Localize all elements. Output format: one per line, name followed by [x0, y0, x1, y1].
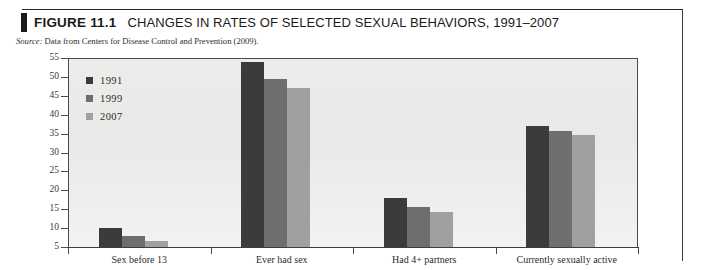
y-axis-tick-label: 45: [35, 91, 59, 100]
figure-container: FIGURE 11.1CHANGES IN RATES OF SELECTED …: [0, 0, 709, 270]
x-axis-category-label: Sex before 13: [68, 254, 211, 265]
y-axis-tick: [61, 209, 68, 210]
legend-item: 1999: [86, 91, 123, 106]
chart-bar: [145, 241, 168, 247]
legend-swatch-icon: [86, 113, 93, 120]
chart-bar: [407, 207, 430, 247]
legend-item: 2007: [86, 109, 123, 124]
y-axis-tick-label: 35: [35, 129, 59, 138]
chart-bar: [287, 88, 310, 247]
chart-bar: [430, 212, 453, 247]
y-axis-tick-label: 40: [35, 110, 59, 119]
chart-bar: [549, 131, 572, 247]
chart-bar: [572, 135, 595, 247]
legend-label: 1999: [100, 93, 123, 104]
y-axis-tick: [61, 247, 68, 248]
x-axis-category-label: Currently sexually active: [496, 254, 639, 265]
x-axis-tick: [638, 248, 639, 254]
y-axis-tick: [61, 153, 68, 154]
y-axis-tick-label: 55: [35, 53, 59, 62]
x-axis-category-label: Had 4+ partners: [353, 254, 496, 265]
chart-plot-wrapper: 555045403530252015105 Sex before 13Ever …: [0, 0, 709, 270]
x-axis-tick: [68, 248, 69, 254]
y-axis-tick: [61, 58, 68, 59]
y-axis-tick: [61, 77, 68, 78]
y-axis-tick-label: 30: [35, 148, 59, 157]
legend-label: 2007: [100, 111, 123, 122]
legend-item: 1991: [86, 73, 123, 88]
chart-legend: 199119992007: [86, 73, 123, 127]
chart-bar: [122, 236, 145, 247]
y-axis-tick: [61, 134, 68, 135]
y-axis-tick: [61, 190, 68, 191]
y-axis-tick-label: 10: [35, 223, 59, 232]
chart-bar: [241, 62, 264, 247]
y-axis-tick-label: 25: [35, 166, 59, 175]
chart-bar: [526, 126, 549, 247]
y-axis-tick: [61, 171, 68, 172]
legend-swatch-icon: [86, 95, 93, 102]
y-axis-tick: [61, 96, 68, 97]
y-axis-tick: [61, 115, 68, 116]
x-axis-category-label: Ever had sex: [211, 254, 354, 265]
y-axis-tick-label: 5: [35, 242, 59, 251]
y-axis-tick-label: 20: [35, 185, 59, 194]
legend-swatch-icon: [86, 77, 93, 84]
chart-bar: [264, 79, 287, 247]
y-axis-tick-label: 15: [35, 204, 59, 213]
chart-bar: [99, 228, 122, 247]
legend-label: 1991: [100, 75, 123, 86]
y-axis-tick: [61, 228, 68, 229]
chart-bar: [384, 198, 407, 247]
y-axis-tick-label: 50: [35, 72, 59, 81]
